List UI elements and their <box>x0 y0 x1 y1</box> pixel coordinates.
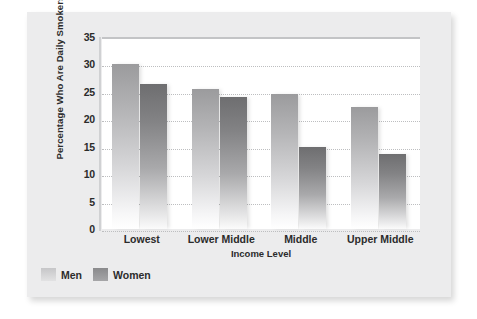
bar-men-lower-middle[interactable] <box>192 89 219 229</box>
x-tick-label: Upper Middle <box>347 233 414 245</box>
legend-item-men[interactable]: Men <box>41 268 82 281</box>
x-tick-label: Middle <box>284 233 317 245</box>
page-root: Percentage Who Are Daily Smokers 0510152… <box>0 0 477 319</box>
bar-women-middle[interactable] <box>299 147 326 229</box>
legend-swatch-women-icon <box>93 268 108 281</box>
legend-label-men: Men <box>61 269 82 281</box>
bar-men-lowest[interactable] <box>112 64 139 229</box>
y-tick-label: 20 <box>73 113 95 125</box>
y-axis-title: Percentage Who Are Daily Smokers <box>54 0 65 173</box>
bar-men-upper-middle[interactable] <box>351 107 378 229</box>
bar-women-upper-middle[interactable] <box>379 154 406 229</box>
bar-men-middle[interactable] <box>271 94 298 229</box>
y-tick-label: 0 <box>73 223 95 235</box>
y-tick-label: 30 <box>73 58 95 70</box>
legend-item-women[interactable]: Women <box>93 268 151 281</box>
y-tick-label: 15 <box>73 141 95 153</box>
x-axis-title: Income Level <box>102 248 420 259</box>
legend-swatch-men-icon <box>41 268 56 281</box>
y-axis-line <box>99 37 101 231</box>
gridline <box>102 66 420 67</box>
x-tick-label: Lowest <box>124 233 160 245</box>
y-tick-label: 10 <box>73 168 95 180</box>
y-axis-tick-labels: 05101520253035 <box>67 37 95 229</box>
legend-label-women: Women <box>113 269 151 281</box>
chart-figure-panel: Percentage Who Are Daily Smokers 0510152… <box>27 12 451 297</box>
bar-women-lowest[interactable] <box>140 84 167 229</box>
gridline <box>102 231 420 232</box>
chart-legend: Men Women <box>41 268 151 281</box>
y-tick-label: 35 <box>73 31 95 43</box>
x-tick-label: Lower Middle <box>188 233 255 245</box>
y-tick-label: 25 <box>73 86 95 98</box>
y-tick-label: 5 <box>73 196 95 208</box>
bar-women-lower-middle[interactable] <box>220 97 247 229</box>
plot-area <box>102 37 420 229</box>
